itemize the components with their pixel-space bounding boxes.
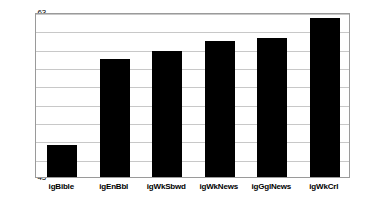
x-tick-label: igWkSbwd [140, 182, 193, 191]
gridline [36, 14, 349, 15]
gridline [36, 69, 349, 70]
bar [257, 38, 287, 177]
gridline [36, 106, 349, 107]
x-tick-label: igWkNews [193, 182, 246, 191]
bar [152, 51, 182, 178]
gridline [36, 142, 349, 143]
bar [47, 145, 77, 177]
bar [310, 18, 340, 177]
x-tick-label: igEnBbl [88, 182, 141, 191]
bar [205, 41, 235, 177]
bar [100, 59, 130, 177]
gridline [36, 32, 349, 33]
x-tick-label: igBible [35, 182, 88, 191]
gridline [36, 51, 349, 52]
x-tick-label: igWkCrl [298, 182, 351, 191]
gridline [36, 124, 349, 125]
bar-chart: 45474951535557596163 igBibleigEnBbligWkS… [0, 0, 373, 205]
plot-area [35, 13, 350, 178]
gridline [36, 87, 349, 88]
x-tick-label: igGglNews [245, 182, 298, 191]
gridline [36, 161, 349, 162]
